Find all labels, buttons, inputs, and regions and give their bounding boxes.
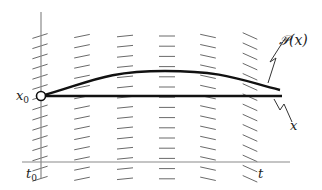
slope-mark [117, 66, 133, 68]
slope-field-diagram: x0 t0 t 𝒫(x) x [0, 0, 322, 190]
slope-mark [200, 147, 216, 150]
slope-mark [117, 107, 133, 109]
slope-mark [117, 168, 133, 170]
p-curve [41, 71, 280, 96]
slope-mark [32, 34, 47, 39]
slope-mark [243, 43, 258, 50]
slope-mark [200, 65, 216, 68]
slope-mark [74, 55, 90, 58]
x-line-label: x [290, 119, 297, 132]
slope-mark [200, 116, 216, 119]
slope-mark [243, 176, 258, 183]
slope-mark [117, 35, 133, 37]
slope-mark [200, 177, 216, 180]
slope-mark [74, 147, 90, 150]
slope-mark [32, 146, 47, 151]
x0-label: x0 [16, 89, 29, 105]
slope-mark [32, 156, 47, 161]
slope-mark [74, 157, 90, 160]
slope-mark [243, 84, 258, 91]
slope-mark [117, 158, 133, 160]
p-curve-label: 𝒫(x) [279, 33, 308, 47]
slope-mark [74, 116, 90, 119]
slope-mark [117, 117, 133, 119]
slope-mark [74, 34, 90, 37]
slope-mark [200, 157, 216, 160]
slope-mark [200, 85, 216, 88]
slope-mark [74, 126, 90, 129]
slope-mark [200, 45, 216, 48]
slope-mark [32, 115, 47, 120]
slope-mark [74, 65, 90, 68]
slope-mark [117, 86, 133, 88]
x0-label-sub: 0 [23, 95, 29, 105]
slope-mark [32, 136, 47, 141]
slope-mark [117, 178, 133, 180]
slope-mark [74, 106, 90, 109]
initial-point-marker [37, 92, 46, 101]
t0-label-sub: 0 [31, 173, 37, 183]
slope-mark [32, 125, 47, 130]
slope-mark [200, 75, 216, 78]
slope-mark [200, 34, 216, 37]
slope-field-marks [32, 33, 257, 182]
slope-mark [243, 135, 258, 142]
slope-mark [117, 76, 133, 78]
diagram-canvas [0, 0, 322, 190]
slope-mark [243, 33, 258, 40]
slope-mark [200, 126, 216, 129]
slope-mark [200, 55, 216, 58]
slope-mark [117, 147, 133, 149]
slope-mark [243, 165, 258, 172]
slope-mark [32, 85, 47, 90]
slope-mark [74, 75, 90, 78]
slope-mark [74, 167, 90, 170]
slope-mark [243, 114, 258, 121]
slope-mark [200, 106, 216, 109]
slope-mark [74, 45, 90, 48]
slope-mark [200, 167, 216, 170]
slope-mark [243, 155, 258, 162]
slope-mark [243, 74, 258, 81]
slope-mark [32, 64, 47, 69]
slope-mark [117, 137, 133, 139]
slope-mark [243, 63, 258, 70]
slope-mark [74, 136, 90, 139]
slope-mark [32, 74, 47, 79]
slope-mark [243, 53, 258, 60]
slope-mark [243, 104, 258, 111]
slope-mark [117, 45, 133, 47]
slope-mark [243, 125, 258, 132]
slope-mark [117, 56, 133, 58]
slope-mark [32, 105, 47, 110]
t0-label: t0 [26, 167, 37, 183]
slope-mark [243, 145, 258, 152]
slope-mark [74, 177, 90, 180]
slope-mark [200, 136, 216, 139]
slope-mark [32, 54, 47, 59]
slope-mark [32, 44, 47, 49]
slope-mark [117, 127, 133, 129]
t-axis-label: t [258, 167, 263, 180]
